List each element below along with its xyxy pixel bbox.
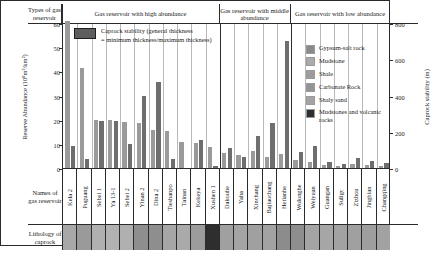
y-axis-right-tick-label: 600 — [395, 57, 405, 64]
lithology-cell — [333, 225, 347, 250]
reservoir-name-cell: Tieshanpo — [162, 169, 176, 225]
reservoir-name-cell: Puguang — [76, 169, 90, 225]
y-axis-left-tick-mark — [59, 24, 62, 25]
row-label-lithology: Lithology of caprock — [28, 225, 62, 250]
reservoir-names-row: Names of gas reservoir Kela 2PuguangSebe… — [28, 169, 418, 225]
bar-caprock-stability — [71, 146, 75, 168]
bar-caprock-stability — [256, 136, 260, 168]
reservoir-name-text: Hetianhe — [280, 185, 287, 208]
legend-lithology-swatch — [306, 70, 315, 79]
legend-caprock-stability: Caprock stability (general thickness = m… — [74, 27, 244, 49]
bar-reserve-abundance — [336, 166, 340, 168]
group-header-band: Gas reservoir with high abundanceGas res… — [28, 4, 418, 24]
bar-reserve-abundance — [151, 130, 155, 168]
y-axis-left: 0102030405060 — [40, 24, 62, 169]
legend-lithology-label: Shaly sand — [319, 96, 347, 104]
reservoir-name-cell: Hetianhe — [276, 169, 290, 225]
bar-caprock-stability — [128, 144, 132, 168]
legend-lithology-label: Shale — [319, 70, 333, 78]
lithology-cell — [76, 225, 90, 250]
lithology-cell — [190, 225, 204, 250]
legend-caprock-line1: Caprock stability (general thickness — [101, 27, 212, 36]
row-label-names: Names of gas reservoir — [28, 169, 62, 225]
y-axis-left-tick-mark — [59, 72, 62, 73]
bar-reserve-abundance — [251, 151, 255, 168]
lithology-cell — [62, 225, 76, 250]
y-axis-left-tick-mark — [59, 48, 62, 49]
bar-caprock-stability — [356, 158, 360, 168]
reservoir-name-text: Kela 2 — [66, 189, 73, 206]
y-axis-right-tick-label: 800 — [395, 21, 405, 28]
lithology-cell — [219, 225, 233, 250]
reservoir-name-cell: Dina 2 — [148, 169, 162, 225]
bar-reserve-abundance — [265, 157, 269, 168]
y-axis-left-tick-mark — [59, 121, 62, 122]
column-gridline — [248, 24, 249, 168]
reservoir-name-text: Zizhou — [351, 188, 358, 206]
column-gridline — [263, 24, 264, 168]
legend-caprock-text: Caprock stability (general thickness = m… — [101, 27, 212, 44]
reservoir-name-cell: Weiyuan — [304, 169, 318, 225]
bar-reserve-abundance — [236, 155, 240, 168]
reservoir-name-cell: Yinan 2 — [133, 169, 147, 225]
lithology-cell — [247, 225, 261, 250]
bar-caprock-stability — [370, 161, 374, 168]
bar-caprock-stability — [99, 121, 103, 168]
lithology-cell — [347, 225, 361, 250]
reservoir-name-text: Bajiaochang — [266, 181, 273, 213]
y-axis-left-label-text: Reserve Abundance (10⁸m³/km²) — [21, 54, 29, 140]
legend-lithology-swatch — [306, 45, 315, 54]
bar-caprock-stability — [85, 159, 89, 168]
bar-reserve-abundance — [194, 143, 198, 168]
lithology-cell — [276, 225, 290, 250]
bar-reserve-abundance — [222, 153, 226, 168]
bar-caprock-stability — [142, 96, 146, 169]
lithology-row: Lithology of caprock — [28, 225, 418, 250]
y-axis-right-tick-label: 200 — [395, 129, 405, 136]
reservoir-name-text: Puguang — [80, 186, 87, 208]
bar-caprock-stability — [242, 157, 246, 168]
y-axis-right-tick-label: 400 — [395, 93, 405, 100]
lithology-cell — [290, 225, 304, 250]
bar-caprock-stability — [156, 82, 160, 168]
lithology-cell — [148, 225, 162, 250]
bar-caprock-stability — [213, 166, 217, 168]
reservoir-name-cell: Guangan — [319, 169, 333, 225]
reservoir-name-text: Xushen 1 — [209, 185, 216, 209]
reservoir-name-text: Dakouhe — [223, 185, 230, 208]
lithology-cell — [233, 225, 247, 250]
legend-lithology-label: Mudstone — [319, 57, 345, 65]
bar-reserve-abundance — [322, 165, 326, 168]
legend-lithology-swatch — [306, 83, 315, 92]
reservoir-name-cell: Kela 2 — [62, 169, 76, 225]
legend-lithology-label: Carbonate Rock — [319, 83, 360, 91]
reservoir-name-cell: Ya 13-1 — [105, 169, 119, 225]
lithology-cell — [91, 225, 105, 250]
bar-caprock-stability — [228, 148, 232, 168]
reservoir-name-cell: Yaha — [233, 169, 247, 225]
bar-reserve-abundance — [122, 122, 126, 168]
reservoir-name-cell: Kekeya — [190, 169, 204, 225]
legend-lithology-swatch — [306, 109, 315, 118]
reservoir-name-text: Tainan — [180, 188, 187, 205]
lithology-cell — [205, 225, 219, 250]
bar-caprock-stability — [171, 159, 175, 168]
legend-lithology-item: Shale — [306, 70, 392, 80]
lithology-cell — [376, 225, 390, 250]
row-label-lithology-text: Lithology of caprock — [28, 230, 62, 246]
reservoir-name-cell: Tainan — [176, 169, 190, 225]
bar-reserve-abundance — [293, 160, 297, 168]
reservoir-name-text: Kekeya — [194, 187, 201, 207]
reservoir-name-text: Yaha — [237, 191, 244, 204]
legend-lithology-label: Gypsum-salt rock — [319, 44, 365, 52]
lithology-cell — [162, 225, 176, 250]
bar-reserve-abundance — [365, 165, 369, 168]
reservoir-name-text: Tieshanpo — [166, 184, 173, 210]
y-axis-right-tick-mark — [390, 133, 393, 134]
reservoir-name-text: Wolonghe — [294, 184, 301, 210]
bar-reserve-abundance — [94, 120, 98, 168]
row-label-names-text: Names of gas reservoir — [28, 189, 62, 205]
y-axis-left-tick-mark — [59, 97, 62, 98]
bar-caprock-stability — [114, 121, 118, 168]
legend-lithology-item: Gypsum-salt rock — [306, 44, 392, 54]
